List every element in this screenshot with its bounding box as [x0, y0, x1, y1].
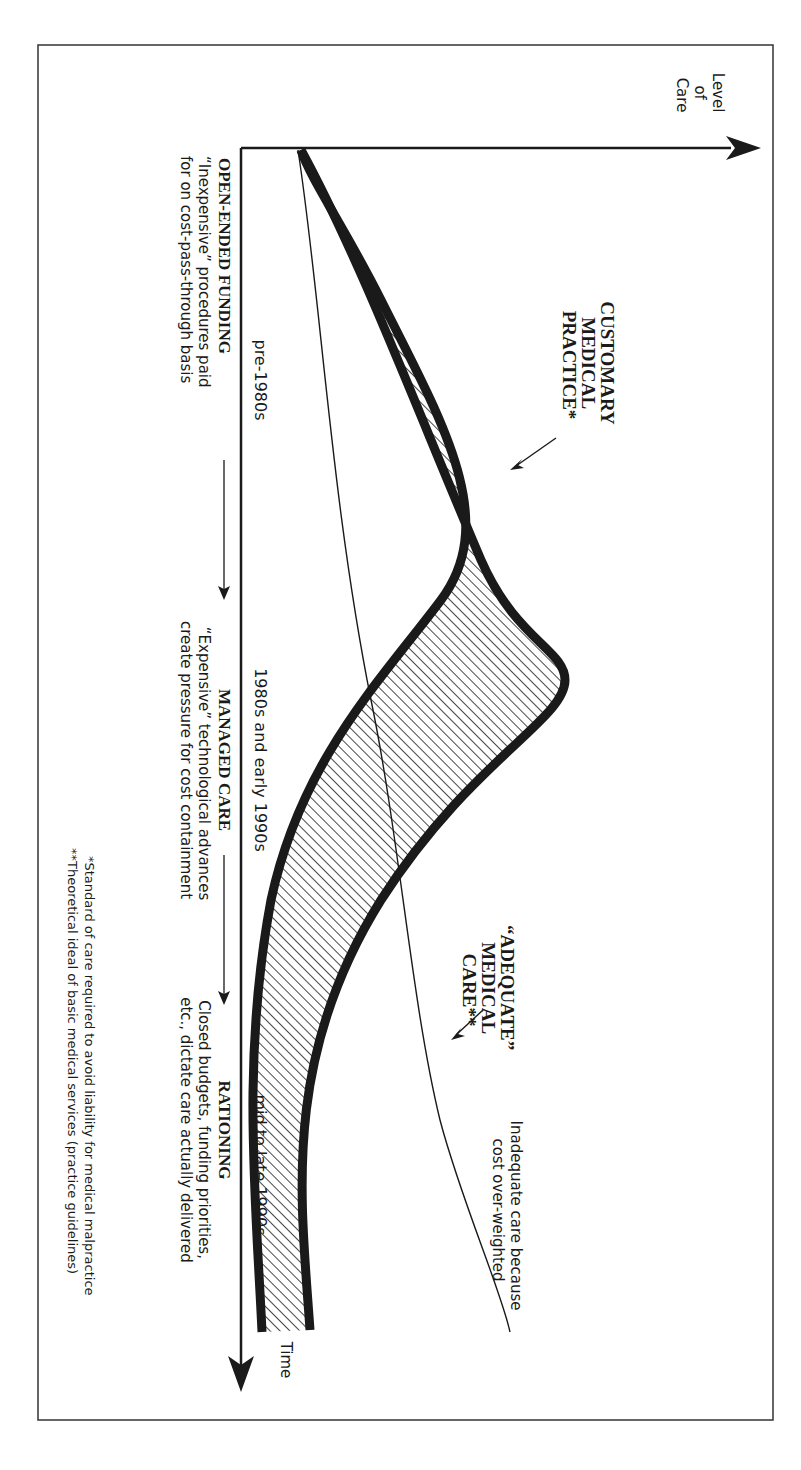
phase-open-ended-funding: OPEN-ENDED FUNDING “Inexpensive” procedu…: [177, 156, 234, 392]
period-label-1980s-early-1990s: 1980s and early 1990s: [251, 668, 270, 852]
phase-title: RATIONING: [215, 1081, 234, 1180]
adequate-care-label: “ADEQUATE” MEDICAL CARE**: [459, 925, 518, 1055]
adequate-label-arrow-icon: [451, 1028, 465, 1040]
phase-managed-care: MANAGED CARE “Expensive” technological a…: [177, 621, 234, 905]
phase-description: Closed budgets, funding priorities, etc.…: [177, 997, 213, 1264]
customary-practice-label: CUSTOMARY MEDICAL PRACTICE*: [559, 301, 618, 429]
phase-description: “Inexpensive” procedures paid for on cos…: [177, 156, 213, 392]
inadequate-care-label: Inadequate care because cost over-weight…: [489, 1121, 525, 1316]
footnotes: *Standard of care required to avoid liab…: [65, 848, 97, 1300]
level-axis-label: Level of Care: [673, 73, 727, 117]
phase-title: OPEN-ENDED FUNDING: [215, 158, 234, 354]
phase-rationing: RATIONING Closed budgets, funding priori…: [177, 997, 234, 1264]
level-axis-arrow-icon: [726, 136, 761, 160]
customary-label-pointer: [516, 438, 556, 466]
phase-description: “Expensive” technological advances creat…: [177, 621, 213, 905]
period-label-pre-1980s: pre-1980s: [251, 339, 270, 420]
time-axis-label: Time: [277, 1341, 295, 1379]
customary-label-arrow-icon: [510, 459, 524, 470]
phase-title: MANAGED CARE: [215, 689, 234, 831]
diagram-canvas: Level of Care Time pre-1980s 1980s and e…: [0, 0, 801, 1470]
period-label-mid-late-1990s: mid to late 1990s: [251, 1095, 270, 1236]
